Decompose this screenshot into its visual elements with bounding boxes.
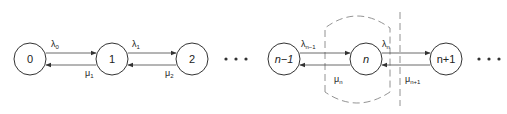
transition-n-n1: λn μn+1 <box>382 39 430 85</box>
rate-mu-n: μn <box>334 74 343 85</box>
node-n: n <box>350 43 382 75</box>
rate-lambda-n-minus-1: λn−1 <box>301 39 316 50</box>
node-n-minus-1: n−1 <box>268 43 300 75</box>
node-1-label: 1 <box>109 53 115 65</box>
birth-death-diagram: λ0 μ1 λ1 μ2 λn−1 μn λn μn+1 0 1 2 n−1 <box>0 0 507 114</box>
node-0: 0 <box>14 43 46 75</box>
rate-lambda-1: λ1 <box>132 39 141 50</box>
node-n-plus-1-label: n+1 <box>437 53 456 65</box>
rate-mu-2: μ2 <box>165 68 174 79</box>
node-n-label: n <box>363 53 369 65</box>
node-0-label: 0 <box>27 53 33 65</box>
node-n-minus-1-label: n−1 <box>275 53 294 65</box>
node-2: 2 <box>176 43 208 75</box>
rate-lambda-n: λn <box>382 39 390 50</box>
transition-1-2: λ1 μ2 <box>128 39 176 79</box>
rate-mu-1: μ1 <box>85 68 94 79</box>
node-n-plus-1: n+1 <box>430 43 462 75</box>
rate-mu-n-plus-1: μn+1 <box>405 74 421 85</box>
rate-lambda-0: λ0 <box>51 39 60 50</box>
ellipsis-middle <box>224 57 247 60</box>
ellipsis-end <box>477 57 500 60</box>
node-1: 1 <box>96 43 128 75</box>
transition-0-1: λ0 μ1 <box>46 39 96 79</box>
node-2-label: 2 <box>189 53 195 65</box>
